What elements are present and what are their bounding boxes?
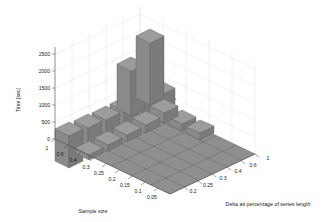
y-tick-0: 1	[46, 145, 49, 151]
y-tick-3: 0.3	[82, 164, 89, 170]
x-tick-0: 0.2	[189, 188, 196, 194]
z-tick-5: 2500	[39, 51, 50, 57]
figure-canvas: 0 500 1000 1500 2000 2500 Time [sec] 1 0…	[0, 0, 329, 222]
x-tick-5: 1	[267, 155, 270, 161]
x-tick-1: 0.25	[203, 182, 213, 188]
z-tick-0: 0	[47, 136, 50, 142]
x-tick-3: 0.4	[234, 168, 241, 174]
z-tick-4: 2000	[39, 68, 50, 74]
z-tick-3: 1500	[39, 85, 50, 91]
z-axis-title: Time [sec]	[15, 87, 21, 112]
z-axis	[52, 47, 55, 139]
y-axis-title: Sample size	[79, 208, 108, 214]
y-tick-2: 0.4	[69, 157, 76, 163]
x-tick-2: 0.3	[219, 175, 226, 181]
z-tick-2: 1000	[39, 102, 50, 108]
y-tick-1: 0.6	[56, 151, 63, 157]
y-tick-4: 0.25	[94, 170, 104, 176]
y-tick-6: 0.15	[120, 182, 130, 188]
y-tick-8: 0.05	[147, 194, 157, 200]
z-tick-1: 500	[42, 119, 51, 125]
y-tick-7: 0.1	[134, 188, 141, 194]
bar-tall-1	[136, 29, 164, 105]
bar3-plot: 0 500 1000 1500 2000 2500 Time [sec] 1 0…	[0, 0, 329, 222]
x-axis-title: Delta as percentage of series length	[226, 201, 311, 207]
z-tick-labels: 0 500 1000 1500 2000 2500	[39, 51, 51, 142]
y-tick-5: 0.2	[108, 176, 115, 182]
x-tick-4: 0.6	[249, 162, 256, 168]
